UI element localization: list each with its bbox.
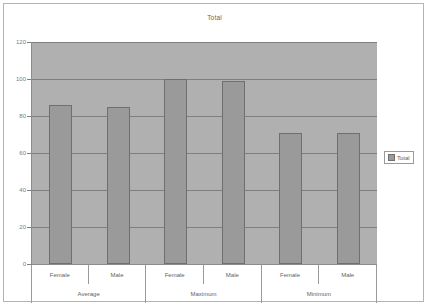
bar[interactable]: [107, 107, 130, 264]
y-axis-tick-label: 0: [4, 261, 26, 267]
legend[interactable]: Total: [384, 151, 414, 164]
x-axis-category-label: Female: [262, 265, 320, 284]
bar[interactable]: [49, 105, 72, 264]
y-axis-tick-mark: [27, 190, 31, 191]
x-axis-group-label: Maximum: [146, 284, 261, 303]
x-axis-category-row: FemaleMaleFemaleMaleFemaleMale: [31, 265, 377, 284]
gridline: [32, 153, 377, 154]
gridline: [32, 116, 377, 117]
y-axis-tick-mark: [27, 42, 31, 43]
bar[interactable]: [337, 133, 360, 264]
legend-item-label: Total: [397, 155, 410, 161]
gridline: [32, 227, 377, 228]
y-axis-tick-mark: [27, 227, 31, 228]
x-axis-category-label: Male: [204, 265, 262, 284]
y-axis-tick-label: 20: [4, 224, 26, 230]
chart-title: Total: [4, 14, 425, 21]
gridline: [32, 79, 377, 80]
bar[interactable]: [164, 79, 187, 264]
x-axis-category-label: Male: [89, 265, 147, 284]
y-axis-tick-label: 120: [4, 39, 26, 45]
bar[interactable]: [222, 81, 245, 264]
x-axis-group-row: AverageMaximumMinimum: [31, 284, 377, 303]
plot-area: [31, 42, 377, 265]
y-axis-tick-label: 60: [4, 150, 26, 156]
gridline: [32, 42, 377, 43]
y-axis-tick-label: 100: [4, 76, 26, 82]
x-axis-group-label: Average: [31, 284, 146, 303]
x-axis-category-label: Female: [146, 265, 204, 284]
gridline: [32, 190, 377, 191]
x-axis-category-label: Male: [319, 265, 377, 284]
x-axis: FemaleMaleFemaleMaleFemaleMale AverageMa…: [31, 265, 377, 303]
bar[interactable]: [279, 133, 302, 264]
y-axis-tick-mark: [27, 79, 31, 80]
x-axis-category-label: Female: [31, 265, 89, 284]
square-swatch-icon: [388, 154, 395, 161]
y-axis-tick-mark: [27, 116, 31, 117]
y-axis-tick-mark: [27, 153, 31, 154]
chart-frame: Total 020406080100120 FemaleMaleFemaleMa…: [3, 3, 424, 302]
x-axis-group-label: Minimum: [262, 284, 377, 303]
y-axis-tick-label: 80: [4, 113, 26, 119]
y-axis-tick-label: 40: [4, 187, 26, 193]
